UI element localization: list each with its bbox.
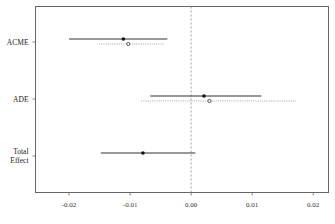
y-category-label: Effect <box>10 156 29 165</box>
point-estimate-solid <box>141 151 145 155</box>
forest-plot: -0.02-0.010.000.010.02 ACMEADETotalEffec… <box>0 0 335 224</box>
y-category-label: ACME <box>7 38 29 47</box>
point-estimate-dotted <box>127 42 130 45</box>
estimate-marks <box>69 37 296 155</box>
point-estimate-dotted <box>208 99 211 102</box>
y-category-label: ADE <box>13 95 29 104</box>
x-tick-label: 0.02 <box>307 201 320 209</box>
y-axis: ACMEADETotalEffect <box>7 38 36 166</box>
x-axis: -0.02-0.010.000.010.02 <box>62 193 320 209</box>
point-estimate-solid <box>122 37 126 41</box>
point-estimate-solid <box>202 94 206 98</box>
x-tick-label: 0.01 <box>246 201 259 209</box>
plot-frame <box>36 7 329 193</box>
x-tick-label: -0.02 <box>62 201 77 209</box>
x-tick-label: 0.00 <box>185 201 198 209</box>
x-tick-label: -0.01 <box>123 201 138 209</box>
y-category-label: Total <box>13 147 28 156</box>
